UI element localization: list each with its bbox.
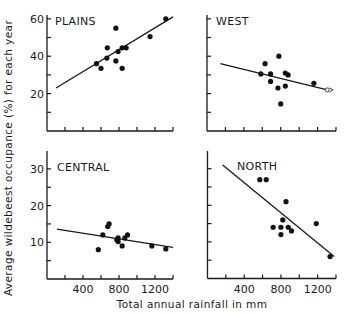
data-point [276,54,281,59]
data-point [278,225,283,230]
x-tick-label: 800 [270,283,291,296]
data-point [268,79,273,84]
x-tick-label: 1200 [304,283,332,296]
data-point [125,232,130,237]
data-point [96,247,101,252]
x-tick-label: 400 [73,283,94,296]
scatter-plot-grid: 204060PLAINSWEST1020304008001200CENTRAL4… [0,0,346,314]
data-point [105,45,110,50]
data-point [163,246,168,251]
data-point [278,101,283,106]
data-point [264,177,269,182]
data-point [149,243,154,248]
panel-central: 1020304008001200CENTRAL [30,151,173,296]
regression-line [220,64,327,90]
data-point [163,16,168,21]
y-tick-label: 20 [30,200,44,213]
x-tick-label: 400 [234,283,255,296]
data-point [257,177,262,182]
data-point [278,232,283,237]
data-point [280,217,285,222]
x-tick-label: 800 [109,283,130,296]
data-point [120,66,125,71]
y-tick-label: 10 [30,236,44,249]
x-axis-label: Total annual rainfall in mm [116,298,268,310]
y-tick-label: 60 [30,13,44,26]
data-point [147,34,152,39]
data-point [116,49,121,54]
panel-title: PLAINS [55,15,96,28]
data-point [311,81,316,86]
data-point [113,26,118,31]
data-point [327,254,332,259]
data-point [124,45,129,50]
data-point [262,61,267,66]
y-tick-label: 20 [30,88,44,101]
y-axis-label: Average wildebeest occupance (%) for eac… [2,20,14,297]
panel-north: 4008001200NORTH [208,151,337,296]
data-point [258,71,263,76]
data-point [98,66,103,71]
data-point [271,225,276,230]
panel-title: WEST [216,15,249,28]
panel-title: NORTH [237,160,277,173]
regression-line [223,165,335,257]
data-point [113,58,118,63]
panel-west: WEST [207,15,336,131]
data-point [268,71,273,76]
data-point [285,72,290,77]
data-point [314,221,319,226]
data-point [289,228,294,233]
data-point [107,221,112,226]
data-point [116,239,121,244]
panels: 204060PLAINSWEST1020304008001200CENTRAL4… [30,13,336,296]
arrowhead-icon [329,88,333,92]
y-tick-label: 30 [30,163,44,176]
data-point [283,199,288,204]
panel-title: CENTRAL [57,161,110,174]
y-tick-label: 40 [30,50,44,63]
wildebeest-rainfall-figure: 204060PLAINSWEST1020304008001200CENTRAL4… [0,0,346,314]
data-point [120,243,125,248]
x-tick-label: 1200 [141,283,169,296]
data-point [275,85,280,90]
open-data-point [325,88,329,92]
data-point [94,61,99,66]
data-point [283,84,288,89]
panel-plains: 204060PLAINS [30,13,173,131]
data-point [104,55,109,60]
data-point [100,232,105,237]
